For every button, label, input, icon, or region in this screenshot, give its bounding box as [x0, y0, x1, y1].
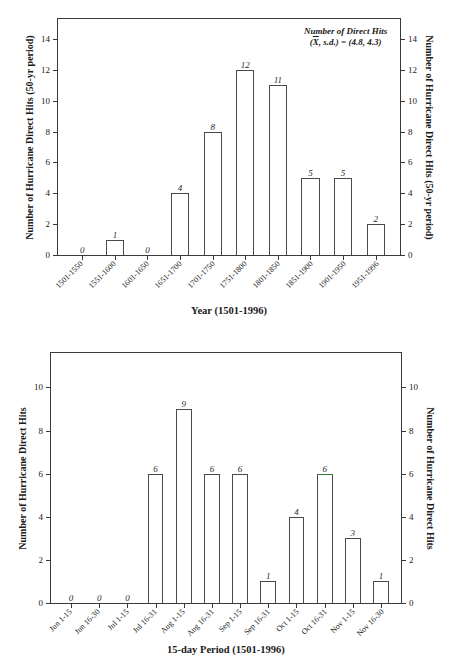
bar-slot: 0	[85, 353, 113, 603]
y-tick-mark-left	[53, 132, 58, 133]
y-tick-mark-left	[53, 224, 58, 225]
y-tick-mark-right	[401, 560, 406, 561]
bar-value-label: 0	[69, 594, 74, 603]
bar-slot: 5	[327, 19, 360, 255]
figure1-y-axis-title-left: Number of Hurricane Direct Hits (50-yr p…	[24, 35, 35, 239]
bar-value-label: 5	[308, 169, 313, 178]
bar-slot: 3	[339, 353, 367, 603]
y-tick-mark-left	[46, 431, 51, 432]
bar-slot: 11	[262, 19, 295, 255]
x-tick-label-slot: 1951-1996	[360, 257, 393, 307]
y-tick-label-left: 2	[39, 555, 44, 564]
y-tick-label-right: 14	[408, 35, 417, 44]
bar: 6	[204, 474, 220, 603]
y-tick-label-right: 10	[408, 96, 417, 105]
y-tick-label-left: 4	[46, 189, 51, 198]
bar-slot: 5	[294, 19, 327, 255]
y-tick-label-left: 6	[39, 469, 44, 478]
bar-value-label: 6	[238, 465, 243, 474]
y-tick-mark-right	[400, 193, 405, 194]
bar-value-label: 3	[351, 529, 356, 538]
y-tick-label-left: 10	[34, 383, 43, 392]
figure1-x-tick-labels: 1501-15501551-16001601-16501651-17001701…	[57, 257, 401, 307]
y-tick-mark-right	[401, 603, 406, 604]
y-tick-label-left: 8	[46, 127, 51, 136]
figure2-bar-series: 000696614631	[51, 353, 401, 603]
y-tick-mark-right	[400, 162, 405, 163]
y-tick-mark-left	[46, 387, 51, 388]
bar-slot: 6	[226, 353, 254, 603]
x-tick-label-slot: Jun 16-30	[84, 605, 112, 655]
bar: 1	[260, 581, 276, 603]
bar-value-label: 5	[341, 169, 346, 178]
bar-slot: 0	[66, 19, 99, 255]
bar-value-label: 0	[97, 594, 102, 603]
bar-slot: 6	[142, 353, 170, 603]
y-tick-label-left: 12	[41, 65, 50, 74]
y-tick-label-right: 0	[409, 599, 414, 608]
bar: 12	[236, 70, 254, 255]
bar: 6	[148, 474, 164, 603]
figure1-annotation-line2: (X, s.d.) = (4.8, 4.3)	[304, 37, 387, 48]
y-tick-mark-right	[400, 132, 405, 133]
y-tick-label-right: 4	[409, 512, 414, 521]
bar-value-label: 4	[294, 508, 299, 517]
y-tick-label-right: 6	[409, 469, 414, 478]
bar: 4	[171, 193, 189, 255]
bar-slot: 2	[359, 19, 392, 255]
bar-value-label: 0	[80, 246, 85, 255]
bar-slot: 0	[131, 19, 164, 255]
bar-slot: 12	[229, 19, 262, 255]
y-tick-mark-left	[53, 162, 58, 163]
bar: 1	[106, 240, 124, 255]
y-tick-mark-right	[401, 517, 406, 518]
y-tick-mark-left	[53, 193, 58, 194]
y-tick-label-left: 14	[41, 35, 50, 44]
y-tick-mark-right	[401, 474, 406, 475]
bar: 6	[232, 474, 248, 603]
bar: 3	[345, 538, 361, 603]
bar-value-label: 11	[274, 76, 282, 85]
y-tick-label-right: 4	[408, 189, 413, 198]
figure2-plot-area: 000696614631 00224466881010	[50, 352, 402, 604]
bar-slot: 6	[198, 353, 226, 603]
y-tick-mark-right	[400, 101, 405, 102]
annotation-stats-values: , s.d.) = (4.8, 4.3)	[319, 37, 382, 47]
y-tick-label-left: 4	[39, 512, 44, 521]
y-tick-label-right: 8	[409, 426, 414, 435]
y-tick-label-right: 12	[408, 65, 417, 74]
y-tick-label-left: 8	[39, 426, 44, 435]
bar-slot: 1	[254, 353, 282, 603]
bar-value-label: 6	[322, 465, 327, 474]
bar: 4	[289, 517, 305, 603]
bar: 8	[204, 132, 222, 255]
y-tick-mark-left	[53, 255, 58, 256]
bar: 5	[301, 178, 319, 255]
bar-value-label: 1	[379, 572, 384, 581]
bar-value-label: 0	[145, 246, 150, 255]
bar: 6	[317, 474, 333, 603]
y-tick-mark-left	[46, 560, 51, 561]
bar-value-label: 9	[182, 400, 187, 409]
x-tick-label: 1501-1550	[55, 260, 85, 290]
figure2-y-axis-title-right: Number of Hurricane Direct Hits	[425, 407, 436, 549]
bar-value-label: 4	[178, 184, 183, 193]
y-tick-mark-left	[46, 517, 51, 518]
bar-slot: 0	[113, 353, 141, 603]
y-tick-mark-right	[400, 224, 405, 225]
figure2-x-axis-title: 15-day Period (1501-1996)	[167, 644, 285, 655]
figure1-annotation-line1: Number of Direct Hits	[304, 26, 387, 37]
bar-slot: 1	[99, 19, 132, 255]
y-tick-mark-right	[400, 39, 405, 40]
figure1-bar-series: 010481211552	[58, 19, 400, 255]
figure1-annotation: Number of Direct Hits (X, s.d.) = (4.8, …	[304, 26, 387, 48]
bar-value-label: 0	[125, 594, 130, 603]
bar: 9	[176, 409, 192, 603]
bar-value-label: 6	[153, 465, 158, 474]
y-tick-label-right: 8	[408, 127, 413, 136]
y-tick-mark-right	[400, 70, 405, 71]
bar-value-label: 6	[210, 465, 215, 474]
bar-value-label: 2	[373, 215, 378, 224]
bar-slot: 9	[170, 353, 198, 603]
y-tick-label-left: 0	[39, 599, 44, 608]
